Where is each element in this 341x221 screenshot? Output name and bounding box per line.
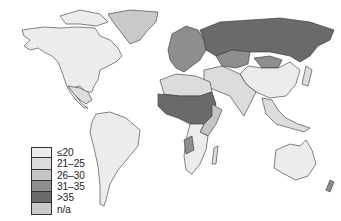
region-arctic-islands	[60, 10, 108, 26]
legend-label: n/a	[57, 204, 71, 215]
region-new-zealand	[326, 180, 334, 192]
region-europe	[168, 26, 206, 72]
legend-label: 26–30	[57, 170, 85, 181]
region-south-america	[90, 112, 140, 206]
legend-swatch	[31, 158, 52, 169]
region-madagascar	[212, 146, 218, 164]
legend-item-26-30: 26–30	[31, 170, 85, 181]
legend-swatch	[31, 170, 52, 181]
region-japan	[302, 66, 312, 86]
legend-item-na: n/a	[31, 203, 85, 214]
legend-label: 31–35	[57, 181, 85, 192]
legend-swatch	[31, 147, 52, 158]
legend-item-gt35: >35	[31, 192, 85, 203]
legend-swatch	[31, 181, 52, 192]
legend-swatch	[31, 203, 52, 214]
legend-label: ≤20	[57, 147, 74, 158]
region-australia	[274, 140, 316, 180]
region-greenland	[108, 10, 158, 44]
legend-swatch	[31, 192, 52, 203]
region-mongolia	[254, 56, 282, 68]
legend-label: >35	[57, 192, 74, 203]
legend-item-21-25: 21–25	[31, 158, 85, 169]
region-north-america	[22, 27, 122, 108]
region-southeast-asia	[262, 98, 310, 132]
map-legend: ≤20 21–25 26–30 31–35 >35 n/a	[31, 147, 85, 215]
legend-label: 21–25	[57, 158, 85, 169]
legend-item-31-35: 31–35	[31, 181, 85, 192]
legend-item-le20: ≤20	[31, 147, 85, 158]
